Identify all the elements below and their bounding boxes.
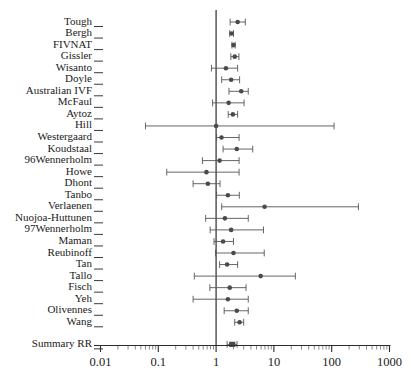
study-label: Dhont bbox=[65, 176, 93, 188]
study-label: Howe bbox=[66, 165, 92, 177]
study-label: Westergaard bbox=[38, 130, 93, 142]
point-estimate-marker bbox=[234, 147, 239, 152]
study-label: Verlaenen bbox=[48, 199, 92, 211]
point-estimate-marker bbox=[231, 112, 236, 117]
point-estimate-marker bbox=[219, 135, 224, 140]
study-label: Tanbo bbox=[65, 188, 93, 200]
x-axis-tick-label: 0.01 bbox=[90, 355, 112, 369]
study-label: Fisch bbox=[68, 280, 92, 292]
study-label: FIVNAT bbox=[53, 38, 92, 50]
study-label: McFaul bbox=[58, 95, 92, 107]
point-estimate-marker bbox=[214, 124, 219, 129]
x-axis-tick-label: 10 bbox=[268, 355, 281, 369]
study-label: Koudstaal bbox=[47, 142, 92, 154]
point-estimate-marker bbox=[224, 66, 229, 71]
study-label: Summary RR bbox=[32, 337, 93, 349]
study-label: Doyle bbox=[65, 72, 92, 84]
study-label: 97Wennerholm bbox=[24, 222, 92, 234]
point-estimate-marker bbox=[226, 101, 231, 106]
study-label: Reubinoff bbox=[48, 246, 93, 258]
x-axis-tick-label: 1 bbox=[213, 355, 219, 369]
summary-point-estimate-marker bbox=[229, 342, 235, 347]
study-label: Gissler bbox=[61, 49, 93, 61]
point-estimate-marker bbox=[223, 216, 228, 221]
x-axis-tick-label: 1000 bbox=[377, 355, 402, 369]
point-estimate-marker bbox=[258, 274, 263, 279]
point-estimate-marker bbox=[231, 251, 236, 256]
study-label: Tan bbox=[76, 257, 93, 269]
point-estimate-marker bbox=[231, 43, 236, 48]
study-label: Wisanto bbox=[56, 61, 93, 73]
study-label: Yeh bbox=[75, 292, 93, 304]
point-estimate-marker bbox=[217, 158, 222, 163]
point-estimate-marker bbox=[229, 31, 234, 36]
x-axis-tick-label: 100 bbox=[322, 355, 341, 369]
point-estimate-marker bbox=[237, 320, 242, 325]
point-estimate-marker bbox=[262, 205, 267, 210]
point-estimate-marker bbox=[229, 228, 234, 233]
point-estimate-marker bbox=[227, 285, 232, 290]
study-label: Olivennes bbox=[47, 303, 92, 315]
study-label: Hill bbox=[75, 118, 92, 130]
point-estimate-marker bbox=[239, 89, 244, 94]
point-estimate-marker bbox=[226, 297, 231, 302]
study-label: Wang bbox=[67, 315, 93, 327]
point-estimate-marker bbox=[235, 20, 240, 25]
point-estimate-marker bbox=[226, 193, 231, 198]
study-label: Bergh bbox=[65, 26, 92, 38]
study-label: Aytoz bbox=[66, 107, 92, 119]
point-estimate-marker bbox=[225, 262, 230, 267]
x-axis-tick-label: 0.1 bbox=[150, 355, 166, 369]
study-label: Nuojoa-Huttunen bbox=[15, 211, 92, 223]
study-label: Maman bbox=[58, 234, 92, 246]
point-estimate-marker bbox=[234, 308, 239, 313]
point-estimate-marker bbox=[206, 181, 211, 186]
point-estimate-marker bbox=[221, 239, 226, 244]
study-label: Tough bbox=[64, 15, 92, 27]
point-estimate-marker bbox=[229, 77, 234, 82]
study-label: Tallo bbox=[70, 269, 93, 281]
point-estimate-marker bbox=[204, 170, 209, 175]
study-label: 96Wennerholm bbox=[24, 153, 92, 165]
point-estimate-marker bbox=[232, 54, 237, 59]
forest-plot-chart: ToughBerghFIVNATGisslerWisantoDoyleAustr… bbox=[0, 0, 411, 374]
study-label: Australian IVF bbox=[26, 84, 92, 96]
